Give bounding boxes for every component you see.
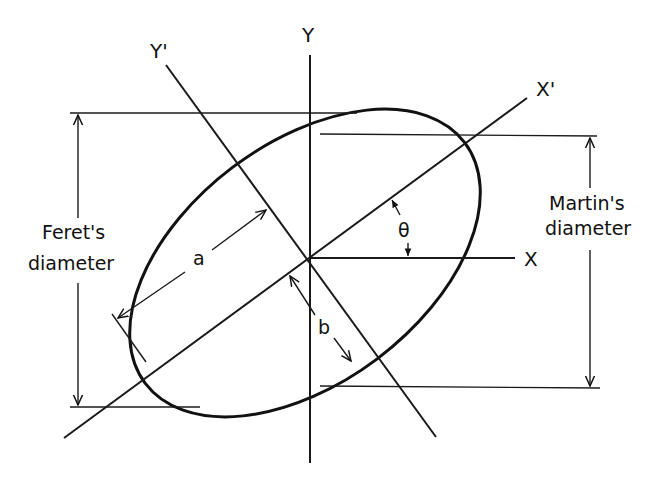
a-arrow-left: [118, 272, 185, 318]
y-axis-label: Y: [301, 23, 315, 47]
feret-label-line1: Feret's: [42, 221, 105, 243]
theta-arrow-up: [392, 200, 400, 215]
particle-diameter-diagram: Y Y' X X' a b θ Feret's diameter Martin'…: [0, 0, 666, 492]
theta-label: θ: [398, 219, 410, 241]
feret-label-line2: diameter: [28, 252, 114, 274]
a-arrow-right: [212, 210, 266, 250]
b-arrow-down: [334, 338, 351, 361]
particle-ellipse: [73, 47, 537, 479]
semi-minor-label: b: [318, 316, 330, 338]
y-prime-axis-line: [166, 65, 436, 437]
x-axis-label: X: [524, 247, 538, 271]
martin-top-line: [320, 134, 597, 136]
martin-bottom-line: [320, 386, 600, 388]
y-prime-axis-label: Y': [149, 39, 168, 63]
b-arrow-up: [290, 276, 315, 315]
semi-major-label: a: [193, 247, 205, 269]
x-prime-axis-label: X': [536, 77, 555, 101]
martin-label-line1: Martin's: [549, 192, 625, 214]
martin-label-line2: diameter: [545, 217, 631, 239]
